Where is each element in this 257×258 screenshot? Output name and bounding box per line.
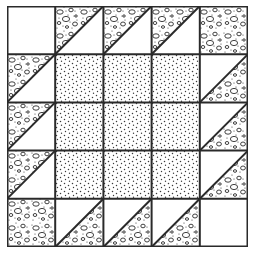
quilt-cell-hst-b xyxy=(103,199,151,247)
quilt-cell-hst-a xyxy=(55,6,103,54)
quilt-cell-white xyxy=(200,199,248,247)
quilt-cell-stipple xyxy=(152,151,200,199)
quilt-diagram xyxy=(7,6,248,247)
quilt-cell-hst-a xyxy=(152,6,200,54)
quilt-cell-hst-a xyxy=(7,54,55,102)
quilt-cell-hst-b xyxy=(152,199,200,247)
quilt-cell-pebble xyxy=(7,199,55,247)
quilt-cell-hst-a xyxy=(7,102,55,150)
quilt-cell-hst-b xyxy=(200,151,248,199)
quilt-cell-hst-b xyxy=(200,102,248,150)
quilt-cell-white xyxy=(7,6,55,54)
quilt-svg xyxy=(7,6,248,247)
quilt-cell-stipple xyxy=(55,102,103,150)
quilt-cell-hst-a xyxy=(103,6,151,54)
quilt-cell-stipple xyxy=(55,151,103,199)
quilt-cell-stipple xyxy=(152,102,200,150)
quilt-cell-pebble xyxy=(200,6,248,54)
quilt-cell-hst-b xyxy=(55,199,103,247)
quilt-cell-stipple xyxy=(55,54,103,102)
quilt-cell-stipple xyxy=(103,151,151,199)
quilt-cell-hst-b xyxy=(200,54,248,102)
quilt-cell-hst-a xyxy=(7,151,55,199)
quilt-cell-stipple xyxy=(103,102,151,150)
quilt-cell-stipple xyxy=(152,54,200,102)
quilt-cell-stipple xyxy=(103,54,151,102)
